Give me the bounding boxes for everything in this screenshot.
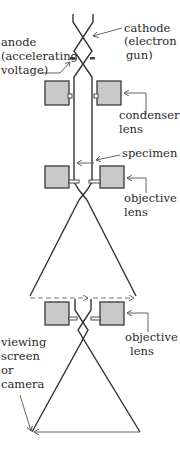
screen-label-line-3: or bbox=[1, 363, 14, 377]
condenser-lens-label: condenser lens bbox=[119, 108, 180, 136]
specimen-label: specimen bbox=[122, 146, 178, 160]
anode-label-line-3: voltage) bbox=[0, 63, 48, 77]
electron-beam-upper bbox=[73, 14, 93, 200]
cathode-label-line-2: (electron bbox=[124, 34, 177, 48]
cathode-leader bbox=[93, 28, 122, 36]
cathode-label: cathode (electron gun) bbox=[124, 21, 177, 62]
screen-label-line-1: viewing bbox=[0, 335, 47, 349]
objective-1-label-line-2: lens bbox=[124, 205, 148, 219]
objective-2-label-line-2: lens bbox=[130, 344, 154, 358]
electron-beam-middle bbox=[30, 200, 136, 296]
specimen-leader bbox=[96, 155, 120, 160]
anode-label: anode (accelerating voltage) bbox=[0, 35, 79, 77]
objective-1-label-line-1: objective bbox=[124, 191, 177, 205]
objective-lens-1-label: objective lens bbox=[124, 191, 177, 219]
tem-diagram: cathode (electron gun) anode (accelerati… bbox=[0, 0, 180, 449]
screen-label-line-4: camera bbox=[1, 377, 45, 391]
objective-lens-2 bbox=[45, 302, 124, 325]
objective-2-label-line-1: objective bbox=[125, 330, 178, 344]
specimen-label-line-1: specimen bbox=[122, 146, 178, 160]
condenser-label-line-1: condenser bbox=[119, 108, 180, 122]
cathode-label-line-3: gun) bbox=[126, 48, 153, 62]
objective-lens-1 bbox=[45, 166, 124, 188]
cathode-label-line-1: cathode bbox=[124, 21, 171, 35]
anode-label-line-2: (accelerating bbox=[1, 49, 79, 63]
anode-label-line-1: anode bbox=[1, 35, 37, 49]
screen-leader bbox=[20, 395, 31, 431]
condenser-label-line-2: lens bbox=[119, 122, 143, 136]
condenser-lens bbox=[45, 81, 121, 105]
objective-lens-2-label: objective lens bbox=[125, 330, 178, 358]
screen-label-line-2: screen bbox=[1, 349, 40, 363]
viewing-screen-label: viewing screen or camera bbox=[0, 335, 47, 391]
